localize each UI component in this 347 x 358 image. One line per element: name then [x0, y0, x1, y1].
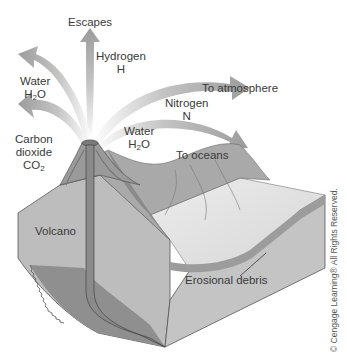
label-escapes: Escapes — [68, 16, 112, 29]
label-nitrogen: Nitrogen N — [165, 97, 208, 123]
label-hydrogen: Hydrogen H — [96, 50, 146, 76]
formula-part: O — [141, 138, 150, 150]
label-to-oceans: To oceans — [176, 149, 228, 162]
label-carbon-dioxide: Carbon dioxide CO2 — [15, 133, 53, 172]
label-volcano: Volcano — [35, 225, 76, 238]
label-water-left: Water H2O — [20, 75, 50, 101]
formula-part: H — [128, 138, 136, 150]
label-erosional-debris: Erosional debris — [185, 274, 267, 287]
label-hydrogen-name: Hydrogen — [96, 50, 146, 63]
outgassing-diagram: Escapes Hydrogen H Water H2O Carbon diox… — [0, 0, 347, 358]
label-co2-formula: CO2 — [15, 159, 53, 172]
formula-part: O — [37, 88, 46, 100]
label-to-atmosphere: To atmosphere — [202, 82, 278, 95]
copyright-credit: © Cengage Learning® All Rights Reserved. — [329, 188, 339, 352]
label-nitrogen-formula: N — [165, 110, 208, 123]
diagram-illustration — [0, 0, 347, 358]
label-co2-line2: dioxide — [15, 146, 53, 159]
label-water-left-formula: H2O — [20, 88, 50, 101]
earth-block — [18, 140, 325, 347]
label-nitrogen-name: Nitrogen — [165, 97, 208, 110]
label-co2-line1: Carbon — [15, 133, 53, 146]
formula-part: H — [24, 88, 32, 100]
label-hydrogen-formula: H — [96, 63, 146, 76]
formula-part: CO — [23, 159, 40, 171]
label-water-right: Water H2O — [124, 125, 154, 151]
label-water-right-name: Water — [124, 125, 154, 138]
label-water-left-name: Water — [20, 75, 50, 88]
formula-subscript: 2 — [40, 164, 44, 173]
label-water-right-formula: H2O — [124, 138, 154, 151]
